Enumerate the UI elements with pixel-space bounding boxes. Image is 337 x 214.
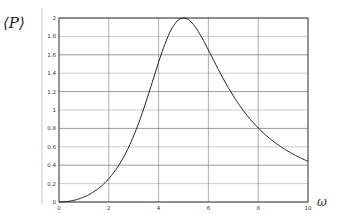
grid-lines xyxy=(59,18,308,202)
y-tick-label: 0 xyxy=(53,199,57,205)
y-axis-label: ⟨P⟩ xyxy=(3,14,25,32)
y-tick-label: 0.8 xyxy=(47,125,56,131)
y-tick-label: 0.4 xyxy=(47,162,56,168)
resonance-chart: 00.20.40.60.811.21.41.61.82 0246810 ⟨P⟩ … xyxy=(0,0,337,214)
x-tick-label: 4 xyxy=(157,205,161,211)
x-tick-label: 0 xyxy=(57,205,61,211)
y-tick-label: 1.2 xyxy=(47,89,56,95)
y-tick-label: 1.8 xyxy=(47,33,56,39)
y-tick-label: 1.6 xyxy=(47,52,56,58)
x-axis-label: ω xyxy=(317,195,327,209)
y-tick-labels: 00.20.40.60.811.21.41.61.82 xyxy=(47,15,56,205)
x-tick-label: 10 xyxy=(305,205,312,211)
x-tick-label: 2 xyxy=(107,205,111,211)
y-tick-label: 0.6 xyxy=(47,144,56,150)
x-tick-label: 8 xyxy=(256,205,260,211)
y-tick-label: 2 xyxy=(53,15,57,21)
x-tick-labels: 0246810 xyxy=(57,205,312,211)
x-tick-label: 6 xyxy=(207,205,211,211)
y-tick-label: 1.4 xyxy=(47,70,56,76)
y-tick-label: 0.2 xyxy=(47,181,56,187)
y-tick-label: 1 xyxy=(53,107,57,113)
